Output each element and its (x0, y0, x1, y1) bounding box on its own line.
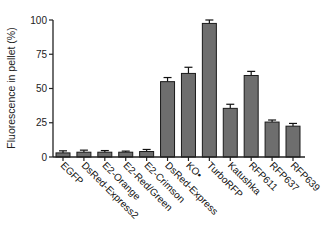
bar (244, 75, 258, 157)
bar (161, 82, 175, 157)
x-tick-label: EGFP (59, 160, 86, 187)
bar (202, 23, 216, 157)
bar (119, 152, 133, 157)
y-tick-label: 75 (36, 49, 48, 60)
x-axis: EGFPDsRed-Express2E2-OrangeE2-Red/GreenE… (53, 157, 323, 221)
bars (56, 20, 300, 157)
bar (223, 108, 237, 157)
bar (181, 73, 195, 157)
y-tick-label: 100 (30, 15, 47, 26)
y-tick-label: 25 (36, 117, 48, 128)
bar-chart: 0255075100 EGFPDsRed-Express2E2-OrangeE2… (0, 0, 336, 247)
y-tick-label: 50 (36, 83, 48, 94)
bar (98, 152, 112, 157)
bar (265, 122, 279, 157)
bar (77, 152, 91, 157)
bar (140, 152, 154, 157)
bar (286, 126, 300, 157)
y-axis-label: Fluorescence in pellet (%) (5, 27, 17, 148)
y-tick-label: 0 (41, 152, 47, 163)
y-axis: 0255075100 (30, 15, 53, 163)
